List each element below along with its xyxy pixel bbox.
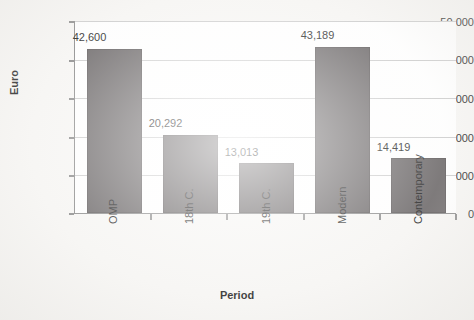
bar-value-modern: 43,189	[284, 30, 351, 41]
x-axis-title: Period	[0, 289, 474, 301]
x-axis-tick-label-omp: OMP	[108, 199, 119, 224]
x-axis-tick-label-contemporary: Contemporary	[413, 154, 424, 224]
bar-omp[interactable]	[87, 49, 142, 213]
bar-value-omp: 42,600	[56, 32, 123, 43]
x-axis-tick-mark-4	[379, 214, 381, 220]
bar-value-contemporary: 14,419	[360, 142, 427, 153]
x-axis-tick-label-modern: Modern	[337, 187, 348, 224]
bar-chart-figure: Euro 50,000 40,000 30,000 20,000 10,000 …	[0, 0, 474, 320]
gridline-50000	[75, 21, 456, 22]
bar-value-18th-c: 20,292	[132, 118, 199, 129]
x-axis-tick-label-18th-c: 18th C.	[184, 189, 195, 224]
x-axis-tick-mark-3	[303, 214, 305, 220]
x-axis-tick-mark-2	[226, 214, 228, 220]
x-axis-tick-label-19th-c: 19th C.	[261, 189, 272, 224]
x-axis-tick-mark-1	[150, 214, 152, 220]
x-axis-tick-mark-5	[455, 214, 457, 220]
y-axis-title: Euro	[8, 70, 20, 95]
bar-value-19th-c: 13,013	[208, 147, 275, 158]
